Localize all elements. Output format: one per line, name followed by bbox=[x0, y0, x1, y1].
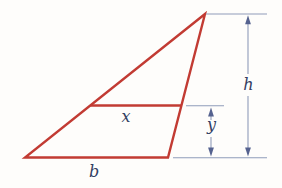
height-h-label: h bbox=[243, 75, 253, 94]
base-b-label: b bbox=[89, 162, 99, 181]
h-arrow-up-icon bbox=[245, 15, 251, 24]
triangle-outline bbox=[25, 14, 205, 158]
y-arrow-down-icon bbox=[208, 147, 214, 156]
figure-canvas: x b h y bbox=[0, 0, 282, 188]
segment-x-label: x bbox=[121, 107, 130, 126]
offset-y-label: y bbox=[206, 115, 217, 134]
h-arrow-down-icon bbox=[245, 147, 251, 156]
triangle-diagram: x b h y bbox=[0, 0, 282, 188]
